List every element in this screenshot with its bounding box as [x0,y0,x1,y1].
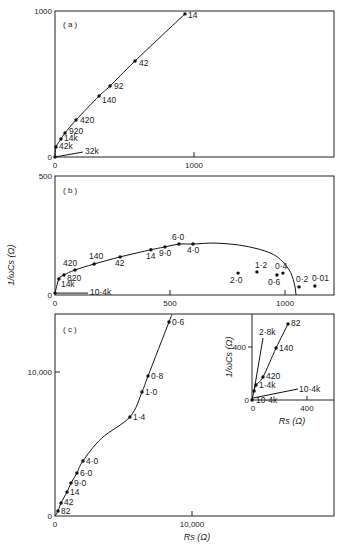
data-point [281,271,284,274]
data-point-label: 2·0 [230,275,243,285]
data-point-label: 1·4 [133,412,146,422]
data-point-label: 82 [61,506,71,516]
callout-line [55,152,83,157]
data-point [73,268,76,271]
data-point [97,94,100,97]
panel-b: 500 0 0 500 1000 ( b ) 1/ωCs (Ω) 14k8204… [6,172,334,308]
data-point [255,270,258,273]
data-point-label: 1·4k [259,380,276,390]
data-point-label: 6·0 [80,468,93,478]
data-point-label: 6·0 [172,232,185,242]
data-point-label: 14 [188,10,198,20]
data-point-label: 14 [70,487,80,497]
data-point-label: 0·8 [151,371,164,381]
panel-c-x-axis-label: Rs (Ω) [184,532,210,542]
data-point [75,471,78,474]
data-point [59,501,62,504]
panel-a-x-zero-label: 0 [53,161,58,170]
data-point [133,59,136,62]
data-point [146,374,149,377]
data-point [177,242,180,245]
data-point [59,137,62,140]
panel-c-tag: ( c ) [63,325,77,334]
panel-b-x-tick-1000-label: 1000 [276,299,294,308]
panel-b-y-axis-label: 1/ωCs (Ω) [6,245,16,286]
data-point [167,320,170,323]
data-point-label: 92 [114,81,124,91]
inset-x-zero-label: 0 [251,404,256,413]
data-point [140,390,143,393]
data-point [297,285,300,288]
panel-a: 1000 0 0 1000 ( a ) 42k14k92042014092421… [34,7,334,170]
data-point [56,509,59,512]
data-point-label: 10·4k [90,287,112,297]
panel-b-y-top-label: 500 [39,172,53,181]
panel-c-x-zero-label: 0 [53,520,58,529]
inset-callout-10.4k: 10·4k [299,384,321,394]
data-point [286,322,289,325]
data-point-label: 1·2 [255,260,268,270]
panel-b-x-zero-label: 0 [53,299,58,308]
data-point-label: 4·0 [187,245,200,255]
data-point [313,284,316,287]
data-point [128,415,131,418]
data-point-label: 820 [67,273,81,283]
panel-a-plot: 42k14k92042014092421432k [53,10,197,159]
data-point-label: 1·0 [145,387,158,397]
locus-curve [55,314,172,516]
data-point-label: 32k [85,146,99,156]
data-point-label: 9·0 [159,248,172,258]
data-point-label: 82 [291,318,301,328]
figure: 1000 0 0 1000 ( a ) 42k14k92042014092421… [0,0,344,553]
inset-callout-2.8k: 2·8k [259,327,276,337]
panel-c-plot: 8242149·06·04·01·41·00·80·6 [55,314,185,516]
panel-a-x-tick-label: 1000 [185,161,203,170]
data-point-label: 9·0 [74,478,87,488]
data-point-label: 140 [89,251,103,261]
panel-c-x-tick-label: 10,000 [180,520,205,529]
panel-b-tag: ( b ) [63,186,78,195]
inset-y-tick-label: 400 [233,343,247,352]
data-point [54,145,57,148]
panel-b-plot: 14k82042014042149·06·04·010·4k2·01·20·60… [53,232,329,297]
inset-y-zero-label: 0 [245,396,250,405]
data-point-label: 42 [115,258,125,268]
data-point-label: 42 [139,58,149,68]
inset-x-tick-label: 400 [300,404,314,413]
data-point-label: 920 [69,126,83,136]
data-point-label: 0·2 [296,274,309,284]
data-point [81,459,84,462]
panel-a-frame [55,11,334,157]
panel-a-y-top-label: 1000 [34,7,52,16]
inset-x-axis-label: Rs (Ω) [279,416,305,426]
data-point [274,346,277,349]
data-point-label: 420 [80,115,94,125]
data-point [250,398,253,401]
panel-b-x-tick-500-label: 500 [163,299,177,308]
panel-c-y-tick-label: 10,000 [28,368,53,377]
data-point [261,375,264,378]
data-point-label: 0·6 [172,317,185,327]
data-point-label: 0·6 [268,277,281,287]
data-point-label: 420 [266,371,280,381]
data-point [62,273,65,276]
data-point-label: 0·01 [312,273,329,283]
inset-y-axis-label: 1/ωCs (Ω) [224,337,234,378]
data-point [92,262,95,265]
panel-c: 10,000 0 0 10,000 Rs (Ω) ( c ) 8242149·0… [28,314,334,542]
data-point [183,12,186,15]
data-point-label: 4·0 [86,456,99,466]
panel-a-tag: ( a ) [63,20,78,29]
data-point [74,118,77,121]
data-point-label: 140 [279,343,293,353]
data-point-label: 42 [64,497,74,507]
panel-c-inset: 400 0 0 400 Rs (Ω) 1/ωCs (Ω) 10·4k1·4k42… [224,314,334,426]
data-point-label: 0·4 [275,261,288,271]
data-point [108,84,111,87]
data-point [63,131,66,134]
data-point-label: 420 [63,258,77,268]
data-point-label: 14 [146,251,156,261]
data-point [69,481,72,484]
data-point [65,490,68,493]
data-point-label: 140 [102,95,116,105]
